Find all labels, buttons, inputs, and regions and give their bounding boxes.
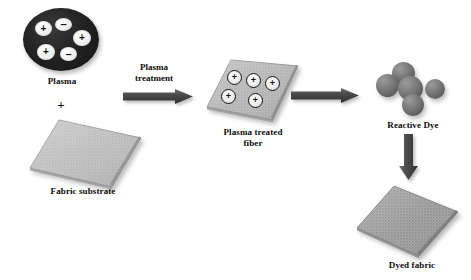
dyed-fabric-shape bbox=[355, 184, 461, 260]
plasma-group: + – + + – bbox=[23, 8, 101, 74]
fiber-charge-1: + bbox=[227, 70, 242, 85]
plasma-treatment-arrow bbox=[123, 89, 195, 109]
fiber-charge-4: + bbox=[221, 89, 236, 104]
fabric-substrate-shape bbox=[28, 118, 144, 190]
dye-transfer-arrow bbox=[291, 88, 361, 108]
dye-application-arrow bbox=[396, 134, 424, 184]
plasma-treated-fiber-shape bbox=[205, 58, 301, 126]
plasma-treated-fiber-group: + + + + + bbox=[205, 58, 301, 126]
plasma-treatment-arrow-label: Plasma treatment bbox=[119, 62, 189, 84]
dye-sphere-2 bbox=[376, 74, 399, 97]
reactive-dye-group bbox=[374, 62, 450, 114]
fabric-substrate-label: Fabric substrate bbox=[14, 186, 152, 197]
plasma-charge-positive-3: + bbox=[37, 44, 55, 60]
dye-sphere-4 bbox=[425, 79, 445, 99]
fiber-charge-3: + bbox=[265, 76, 280, 91]
fiber-charge-5: + bbox=[248, 93, 263, 108]
dye-sphere-5 bbox=[402, 94, 424, 116]
plasma-treated-fiber-label: Plasma treated fiber bbox=[197, 127, 309, 149]
process-diagram-canvas: + – + + – Plasma + bbox=[0, 0, 471, 280]
plasma-charge-negative-1: – bbox=[55, 18, 72, 31]
combine-plus-symbol: + bbox=[38, 97, 84, 113]
reactive-dye-label: Reactive Dye bbox=[361, 120, 465, 131]
fiber-charge-2: + bbox=[246, 73, 261, 88]
plasma-label: Plasma bbox=[14, 76, 110, 87]
plasma-charge-positive-2: + bbox=[73, 30, 91, 46]
plasma-charge-negative-2: – bbox=[60, 47, 77, 61]
dyed-fabric-label: Dyed fabric bbox=[360, 260, 464, 271]
plasma-charge-positive-1: + bbox=[35, 21, 52, 36]
